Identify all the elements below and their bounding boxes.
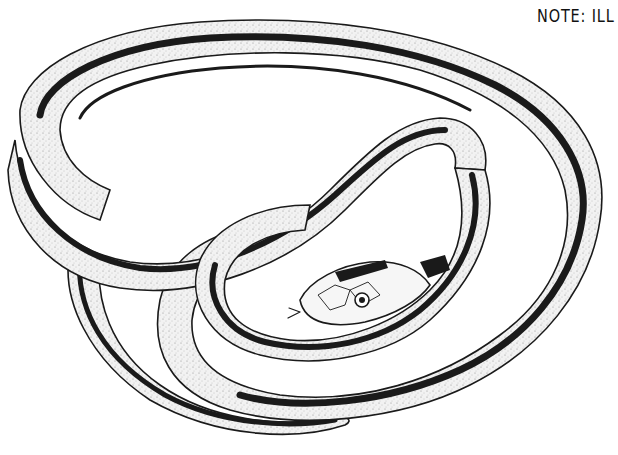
snake-illustration <box>0 0 618 455</box>
